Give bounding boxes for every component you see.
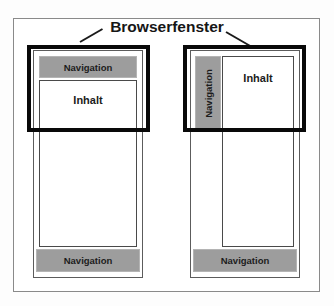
right-navigation-side-block: Navigation	[195, 56, 221, 131]
right-navigation-bottom-block: Navigation	[193, 249, 297, 272]
left-navigation-bottom-block: Navigation	[36, 249, 140, 272]
right-content-block: Inhalt	[222, 56, 294, 247]
right-content-label: Inhalt	[243, 72, 272, 84]
diagram-canvas: Browserfenster Navigation Inhalt Navigat…	[0, 0, 334, 306]
right-navigation-side-label: Navigation	[203, 69, 214, 118]
left-navigation-top-label: Navigation	[64, 62, 113, 73]
left-navigation-top-block: Navigation	[39, 56, 137, 78]
right-navigation-bottom-label: Navigation	[221, 255, 270, 266]
figure-title: Browserfenster	[0, 18, 334, 36]
left-navigation-bottom-label: Navigation	[64, 255, 113, 266]
left-content-label: Inhalt	[73, 94, 102, 106]
left-content-block: Inhalt	[39, 80, 137, 247]
